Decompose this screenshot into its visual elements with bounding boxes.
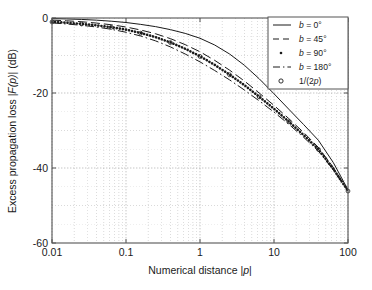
y-tick-label: -20 (33, 87, 48, 99)
legend-label: b = 45° (299, 34, 327, 44)
legend-label: b = 0° (299, 20, 322, 30)
x-tick-label: 1 (197, 246, 203, 258)
legend-label: b = 90° (299, 48, 327, 58)
legend-marker-dot (280, 52, 283, 55)
legend-label: b = 180° (299, 62, 331, 72)
y-axis-label: Excess propagation loss |F(p)| (dB) (6, 49, 18, 213)
chart-svg: 0.010.11101000-20-40-60 Excess propagati… (0, 0, 372, 290)
x-axis-label: Numerical distance |p| (148, 264, 252, 276)
y-tick-label: 0 (42, 12, 48, 24)
legend[interactable]: b = 0°b = 45°b = 90°b = 180°1/(2p) (268, 17, 348, 89)
x-tick-label: 100 (339, 246, 357, 258)
figure-container: 0.010.11101000-20-40-60 Excess propagati… (0, 0, 372, 290)
x-tick-label: 0.1 (119, 246, 134, 258)
x-tick-label: 10 (268, 246, 280, 258)
y-tick-label: -60 (33, 237, 48, 249)
legend-label: 1/(2p) (299, 76, 322, 86)
y-tick-label: -40 (33, 162, 48, 174)
